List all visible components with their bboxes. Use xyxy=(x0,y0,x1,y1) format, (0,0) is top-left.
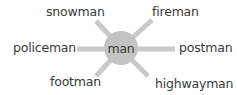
spoke-label-highwayman: highwayman xyxy=(155,78,233,91)
word-spider-diagram: man snowman fireman policeman postman fo… xyxy=(0,0,237,95)
spoke-label-policeman: policeman xyxy=(13,42,76,55)
center-word: man xyxy=(107,43,134,56)
spoke-label-postman: postman xyxy=(179,42,232,55)
spoke-label-fireman: fireman xyxy=(152,6,199,19)
spoke-label-footman: footman xyxy=(50,76,101,89)
spoke-label-snowman: snowman xyxy=(46,6,105,19)
